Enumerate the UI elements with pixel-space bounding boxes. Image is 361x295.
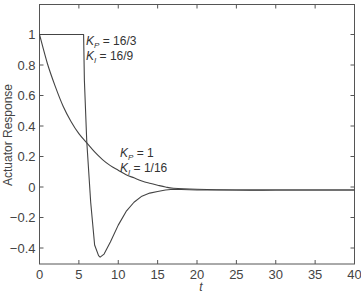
annotation-kp-1: KP = 1 (120, 146, 154, 162)
y-tick-label: 1 (28, 27, 35, 42)
x-tick-label: 15 (150, 267, 164, 282)
y-axis-ticks: −0.4−0.200.20.40.60.81 (10, 27, 355, 256)
y-tick-label: 0.4 (17, 119, 35, 134)
x-tick-label: 5 (75, 267, 82, 282)
x-tick-label: 40 (347, 267, 361, 282)
x-tick-label: 25 (229, 267, 243, 282)
y-tick-label: −0.4 (10, 241, 36, 256)
y-tick-label: 0.2 (17, 149, 35, 164)
x-tick-label: 10 (111, 267, 125, 282)
y-tick-label: −0.2 (10, 210, 36, 225)
series-high-gain-line (40, 35, 355, 258)
annotation-ki-1-16: KI = 1/16 (120, 161, 168, 177)
annotation-kp-16-3: KP = 16/3 (86, 34, 137, 50)
annotation-ki-16-9: KI = 16/9 (86, 49, 134, 65)
y-tick-label: 0.8 (17, 58, 35, 73)
annotation-low-gain: KP = 1 KI = 1/16 (120, 146, 168, 177)
series-layer (40, 35, 355, 258)
y-tick-label: 0 (28, 180, 35, 195)
x-tick-label: 0 (36, 267, 43, 282)
x-tick-label: 35 (308, 267, 322, 282)
x-axis-ticks: 0510152025303540 (36, 5, 361, 283)
line-chart: 0510152025303540 −0.4−0.200.20.40.60.81 … (0, 0, 361, 295)
x-axis-label: t (199, 280, 203, 294)
y-tick-label: 0.6 (17, 88, 35, 103)
annotation-high-gain: KP = 16/3 KI = 16/9 (86, 34, 137, 65)
y-axis-label: Actuator Response (1, 84, 15, 186)
x-tick-label: 30 (269, 267, 283, 282)
